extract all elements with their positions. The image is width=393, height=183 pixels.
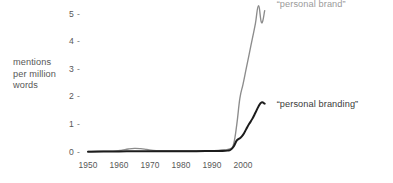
- x-tick-label-1950: 1950: [71, 160, 105, 170]
- x-tick-label-1980: 1980: [164, 160, 198, 170]
- y-tick-mark: -: [77, 64, 80, 74]
- y-tick-label-5: 5: [58, 9, 74, 19]
- y-tick-mark: -: [77, 119, 80, 129]
- y-tick-label-4: 4: [58, 36, 74, 46]
- y-tick-label-2: 2: [58, 91, 74, 101]
- y-tick-mark: -: [77, 147, 80, 157]
- series-label-personal-brand: “personal brand”: [277, 0, 346, 9]
- y-tick-label-0: 0: [58, 147, 74, 157]
- y-axis-title-line-3: words: [13, 80, 79, 92]
- y-tick-mark: -: [77, 9, 80, 19]
- x-tick-label-1990: 1990: [195, 160, 229, 170]
- y-tick-mark: -: [77, 91, 80, 101]
- y-tick-label-1: 1: [58, 119, 74, 129]
- y-tick-label-3: 3: [58, 64, 74, 74]
- y-tick-mark: -: [77, 36, 80, 46]
- series-label-personal-branding: “personal branding”: [277, 99, 359, 109]
- x-tick-label-1960: 1960: [102, 160, 136, 170]
- y-axis-title: mentions per million words: [13, 57, 79, 92]
- series-line-personal-brand: [88, 6, 265, 152]
- x-tick-label-2000: 2000: [226, 160, 260, 170]
- ngram-line-chart: mentions per million words 0-1-2-3-4-5- …: [0, 0, 393, 183]
- x-tick-label-1970: 1970: [133, 160, 167, 170]
